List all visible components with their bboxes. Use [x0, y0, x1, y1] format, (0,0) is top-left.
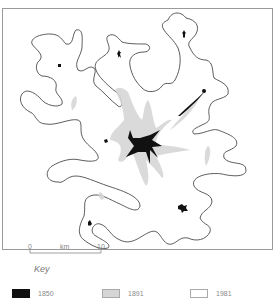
key-item-1850: 1850 [12, 288, 54, 299]
scale-start-label: 0 [28, 243, 32, 250]
swatch-1891 [102, 289, 120, 298]
swatch-1981 [190, 289, 208, 298]
scale-unit-label: km [60, 243, 69, 250]
key-item-1891: 1891 [102, 288, 144, 299]
key-title: Key [34, 264, 50, 274]
key-label-1981: 1981 [216, 290, 232, 297]
map-canvas [0, 0, 279, 260]
key-item-1981: 1981 [190, 288, 232, 299]
key-label-1850: 1850 [38, 290, 54, 297]
scale-end-label: 10 [97, 243, 105, 250]
key-label-1891: 1891 [128, 290, 144, 297]
swatch-1850 [12, 289, 30, 298]
